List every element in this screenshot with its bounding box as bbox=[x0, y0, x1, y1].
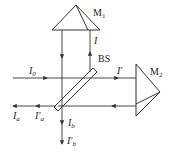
label-i-prime: I' bbox=[116, 65, 123, 76]
beam-splitter bbox=[54, 68, 97, 111]
diagram-svg: M1 M2 BS I0 I I' Ia I'a Ib I'b bbox=[0, 0, 171, 156]
label-ia: Ia bbox=[12, 110, 20, 123]
interferometer-diagram: M1 M2 BS I0 I I' Ia I'a Ib I'b bbox=[0, 0, 171, 156]
label-bs: BS bbox=[98, 53, 110, 64]
label-ib: Ib bbox=[67, 117, 75, 130]
label-i: I bbox=[93, 35, 98, 46]
label-ib-prime: I'b bbox=[66, 135, 76, 148]
label-m2: M2 bbox=[150, 66, 163, 79]
label-ia-prime: I'a bbox=[34, 110, 44, 123]
label-m1: M1 bbox=[93, 7, 106, 20]
label-i0: I0 bbox=[28, 65, 36, 78]
